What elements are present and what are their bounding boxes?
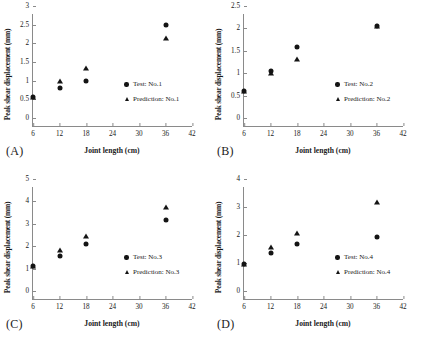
- y-axis-tick: 2: [236, 24, 244, 32]
- y-axis-label: Peak shear displacement (mm): [1, 187, 15, 307]
- y-axis-tick: 4: [25, 197, 33, 205]
- legend-item-test: Test: No.4: [333, 253, 390, 261]
- x-axis-tick: 36: [162, 126, 169, 138]
- panel-label: (B): [217, 144, 234, 159]
- prediction-data-point: [268, 70, 274, 75]
- y-axis-tick: 0: [236, 114, 244, 122]
- y-axis-label-text: Peak shear displacement (mm): [4, 28, 13, 119]
- x-axis-tick: 24: [320, 299, 327, 311]
- x-axis-tick: 6: [242, 299, 246, 311]
- x-axis-label: Joint length (cm): [32, 319, 192, 328]
- x-axis-tick: 42: [399, 299, 406, 311]
- test-data-point: [57, 254, 62, 259]
- legend-item-prediction: Prediction: No.3: [122, 268, 179, 276]
- y-axis-tick: 1.5: [20, 58, 33, 66]
- prediction-data-point: [83, 66, 89, 71]
- y-axis-tick: 4: [236, 175, 244, 183]
- x-axis-label: Joint length (cm): [243, 146, 403, 155]
- legend-label: Prediction: No.1: [133, 95, 179, 103]
- y-axis-label-text: Peak shear displacement (mm): [4, 201, 13, 292]
- x-axis-tick: 30: [346, 126, 353, 138]
- y-axis-tick: 0: [25, 287, 33, 295]
- legend-label: Prediction: No.2: [344, 95, 390, 103]
- y-axis-tick: 3: [25, 2, 33, 10]
- circle-marker-icon: [122, 255, 131, 259]
- y-axis-tick: 2: [25, 39, 33, 47]
- y-axis-tick: 1.5: [231, 47, 244, 55]
- triangle-marker-icon: [122, 97, 131, 101]
- x-axis-tick: 18: [293, 126, 300, 138]
- test-data-point: [163, 23, 168, 28]
- test-data-point: [163, 217, 168, 222]
- legend-item-test: Test: No.1: [122, 80, 179, 88]
- prediction-data-point: [374, 24, 380, 29]
- x-axis-tick: 30: [135, 299, 142, 311]
- y-axis-label: Peak shear displacement (mm): [1, 14, 15, 134]
- legend-label: Test: No.3: [133, 253, 162, 261]
- x-axis-tick: 6: [31, 299, 35, 311]
- x-axis-tick: 42: [188, 126, 195, 138]
- prediction-data-point: [241, 262, 247, 267]
- x-axis-tick: 36: [373, 126, 380, 138]
- test-data-point: [295, 44, 300, 49]
- panel-d: Peak shear displacement (mm)012346121824…: [211, 173, 421, 346]
- y-axis-tick: 5: [25, 175, 33, 183]
- x-axis-tick: 12: [56, 126, 63, 138]
- test-data-point: [84, 241, 89, 246]
- y-axis-label-text: Peak shear displacement (mm): [215, 201, 224, 292]
- y-axis-label-text: Peak shear displacement (mm): [215, 28, 224, 119]
- x-axis-label: Joint length (cm): [243, 319, 403, 328]
- triangle-marker-icon: [333, 97, 342, 101]
- prediction-data-point: [30, 264, 36, 269]
- y-axis-tick: 2: [25, 242, 33, 250]
- y-axis-tick: 3: [25, 220, 33, 228]
- legend-item-prediction: Prediction: No.1: [122, 95, 179, 103]
- x-axis-tick: 18: [293, 299, 300, 311]
- legend-label: Prediction: No.4: [344, 268, 390, 276]
- panel-c: Peak shear displacement (mm)012345612182…: [0, 173, 210, 346]
- plot-area: 00.511.522.536121824303642Test: No.1Pred…: [32, 14, 192, 127]
- x-axis-tick: 12: [267, 126, 274, 138]
- panel-b: Peak shear displacement (mm)00.511.522.5…: [211, 0, 421, 173]
- prediction-data-point: [57, 247, 63, 252]
- circle-marker-icon: [333, 82, 342, 86]
- legend-label: Test: No.1: [133, 80, 162, 88]
- y-axis-tick: 2.5: [20, 21, 33, 29]
- y-axis-label: Peak shear displacement (mm): [212, 187, 226, 307]
- legend-label: Prediction: No.3: [133, 268, 179, 276]
- legend: Test: No.1Prediction: No.1: [122, 80, 179, 110]
- legend-label: Test: No.2: [344, 80, 373, 88]
- prediction-data-point: [30, 94, 36, 99]
- test-data-point: [374, 235, 379, 240]
- x-axis-tick: 42: [188, 299, 195, 311]
- y-axis-tick: 1: [236, 69, 244, 77]
- x-axis-tick: 42: [399, 126, 406, 138]
- x-axis-tick: 24: [109, 299, 116, 311]
- prediction-data-point: [294, 231, 300, 236]
- prediction-data-point: [163, 36, 169, 41]
- y-axis-tick: 2.5: [231, 2, 244, 10]
- x-axis-tick: 36: [162, 299, 169, 311]
- prediction-data-point: [374, 199, 380, 204]
- prediction-data-point: [163, 204, 169, 209]
- test-data-point: [57, 85, 62, 90]
- prediction-data-point: [83, 234, 89, 239]
- panel-a: Peak shear displacement (mm)00.511.522.5…: [0, 0, 210, 173]
- panel-label: (A): [6, 144, 24, 159]
- legend-item-test: Test: No.2: [333, 80, 390, 88]
- x-axis-tick: 6: [31, 126, 35, 138]
- legend-item-prediction: Prediction: No.2: [333, 95, 390, 103]
- prediction-data-point: [268, 244, 274, 249]
- x-axis-label: Joint length (cm): [32, 146, 192, 155]
- x-axis-tick: 12: [56, 299, 63, 311]
- legend-label: Test: No.4: [344, 253, 373, 261]
- figure-panels-grid: Peak shear displacement (mm)00.511.522.5…: [0, 0, 421, 346]
- x-axis-tick: 18: [82, 126, 89, 138]
- y-axis-tick: 2: [236, 231, 244, 239]
- triangle-marker-icon: [122, 270, 131, 274]
- x-axis-tick: 18: [82, 299, 89, 311]
- plot-area: 0123456121824303642Test: No.3Prediction:…: [32, 187, 192, 300]
- plot-area: 012346121824303642Test: No.4Prediction: …: [243, 187, 403, 300]
- x-axis-tick: 30: [135, 126, 142, 138]
- legend-item-test: Test: No.3: [122, 253, 179, 261]
